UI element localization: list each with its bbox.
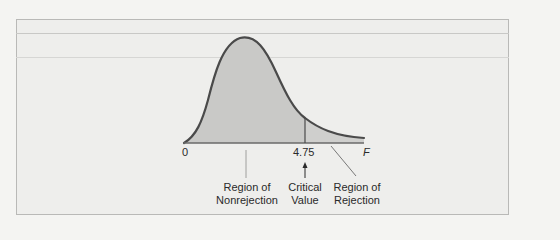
nonrejection-area bbox=[184, 37, 305, 143]
critical-value-label: Critical Value bbox=[283, 181, 327, 207]
nonrejection-label-line2: Nonrejection bbox=[212, 194, 282, 207]
critical-value-tick-label: 4.75 bbox=[293, 146, 314, 158]
rejection-label: Region of Rejection bbox=[327, 181, 387, 207]
rejection-label-line2: Rejection bbox=[327, 194, 387, 207]
rejection-area bbox=[305, 118, 364, 143]
nonrejection-label-line1: Region of bbox=[212, 181, 282, 194]
f-variable-label: F bbox=[363, 146, 370, 158]
rejection-label-line1: Region of bbox=[327, 181, 387, 194]
rejection-pointer bbox=[331, 146, 356, 176]
nonrejection-label: Region of Nonrejection bbox=[212, 181, 282, 207]
critical-value-label-line1: Critical bbox=[283, 181, 327, 194]
arrow-up-icon bbox=[303, 162, 308, 168]
origin-tick-label: 0 bbox=[182, 146, 188, 158]
critical-value-label-line2: Value bbox=[283, 194, 327, 207]
